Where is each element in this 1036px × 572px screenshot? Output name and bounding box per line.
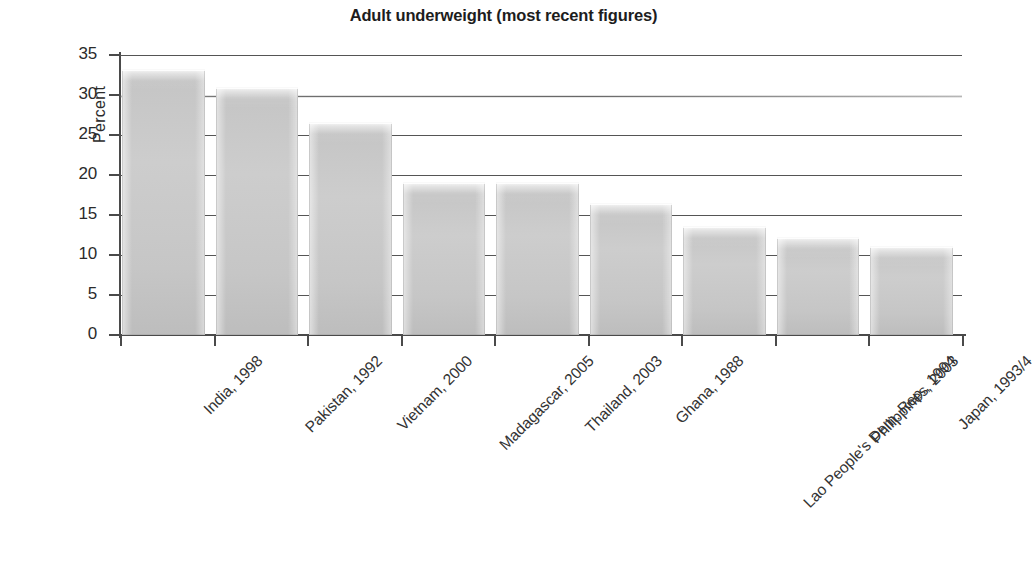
y-tick-5 bbox=[109, 294, 120, 296]
x-axis-label: Japan, 1993/4 bbox=[955, 352, 1036, 433]
x-tick bbox=[494, 336, 496, 346]
bar bbox=[216, 87, 299, 335]
bar bbox=[309, 122, 392, 335]
y-tick-label-35: 35 bbox=[37, 44, 97, 64]
x-axis-label: Ghana, 1988 bbox=[672, 352, 747, 427]
y-tick-label-0: 0 bbox=[37, 324, 97, 344]
bar bbox=[590, 203, 673, 335]
y-tick-15 bbox=[109, 214, 120, 216]
gridline-35 bbox=[120, 55, 962, 56]
x-tick bbox=[588, 336, 590, 346]
x-tick bbox=[962, 336, 964, 346]
x-tick bbox=[868, 336, 870, 346]
x-axis-label: Madagascar, 2005 bbox=[496, 352, 598, 454]
x-axis-label: Vietnam, 2000 bbox=[394, 352, 476, 434]
bar bbox=[683, 226, 766, 335]
x-tick bbox=[775, 336, 777, 346]
y-tick-label-5: 5 bbox=[37, 284, 97, 304]
x-axis-label: Pakistan, 1992 bbox=[301, 352, 385, 436]
bar bbox=[777, 237, 860, 335]
x-tick bbox=[681, 336, 683, 346]
y-tick-0 bbox=[109, 334, 120, 336]
y-tick-30 bbox=[109, 94, 120, 96]
y-tick-35 bbox=[109, 54, 120, 56]
bar bbox=[403, 182, 486, 335]
plot-area: Percent 05101520253035 bbox=[120, 55, 962, 335]
y-tick-label-10: 10 bbox=[37, 244, 97, 264]
bar bbox=[496, 182, 579, 335]
bar bbox=[870, 246, 953, 335]
y-tick-label-15: 15 bbox=[37, 204, 97, 224]
chart-title: Adult underweight (most recent figures) bbox=[0, 6, 1007, 25]
bar bbox=[122, 69, 205, 335]
y-tick-label-30: 30 bbox=[37, 84, 97, 104]
y-tick-25 bbox=[109, 134, 120, 136]
x-tick bbox=[307, 336, 309, 346]
y-tick-20 bbox=[109, 174, 120, 176]
x-axis-label: India, 1998 bbox=[200, 352, 266, 418]
y-tick-label-20: 20 bbox=[37, 164, 97, 184]
x-tick bbox=[120, 336, 122, 346]
y-tick-label-25: 25 bbox=[37, 124, 97, 144]
y-tick-10 bbox=[109, 254, 120, 256]
x-axis-label: Philippines, 2003 bbox=[867, 352, 962, 447]
x-tick bbox=[214, 336, 216, 346]
x-tick bbox=[401, 336, 403, 346]
